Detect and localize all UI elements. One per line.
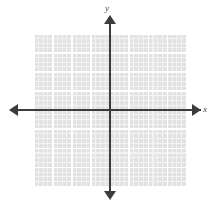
coordinate-plane-figure: x y (0, 0, 214, 207)
y-axis-label: y (105, 4, 109, 13)
x-axis-line (15, 109, 201, 111)
x-axis-label: x (203, 105, 207, 114)
y-axis-up-arrowhead-icon (104, 15, 116, 24)
x-axis-left-arrowhead-icon (9, 104, 18, 116)
y-axis-down-arrowhead-icon (104, 191, 116, 200)
y-axis-line (109, 22, 111, 197)
x-axis-right-arrowhead-icon (192, 104, 201, 116)
